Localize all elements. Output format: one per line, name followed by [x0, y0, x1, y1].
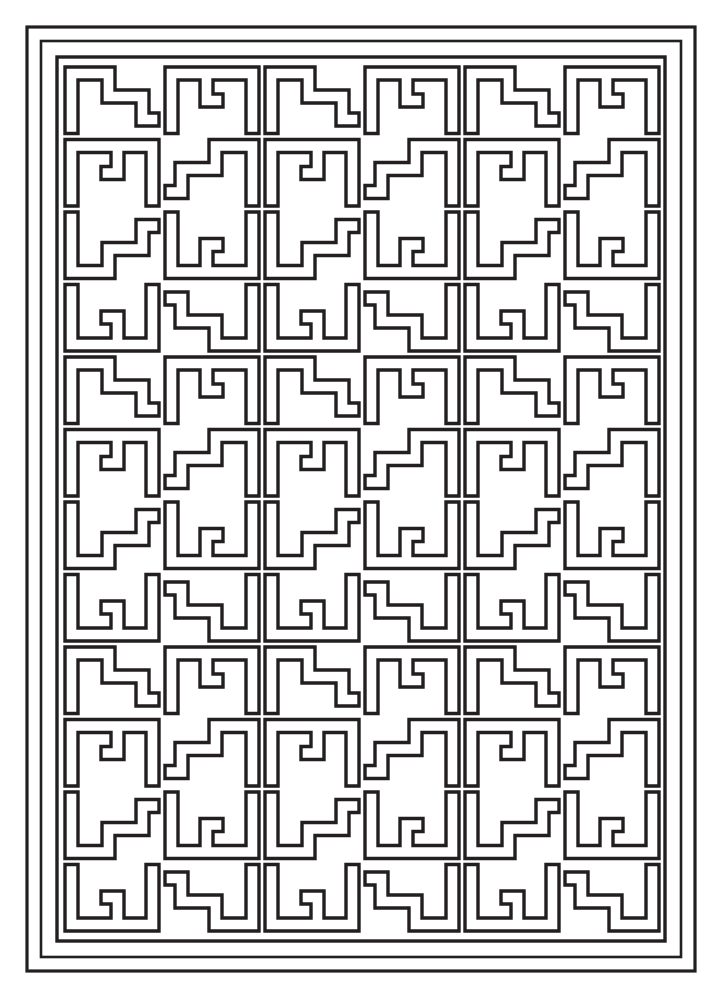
pattern-artboard — [0, 0, 722, 998]
coloring-page — [0, 0, 722, 998]
pattern-canvas — [0, 0, 722, 998]
